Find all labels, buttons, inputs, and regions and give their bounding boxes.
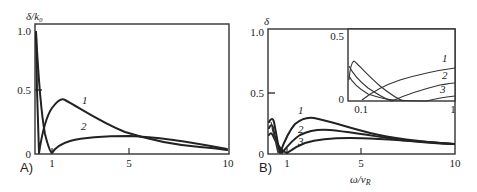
panel-a-y-tick-label-0.5: 0.5 (17, 84, 31, 96)
panel-a-y-axis-label: δ/k₀ (26, 10, 43, 22)
panel-b-x-tick-label-1: 1 (284, 157, 290, 169)
panel-b-x-axis-label: ω/vR (350, 173, 371, 187)
panel-b-curve-2-label: 2 (298, 123, 304, 135)
panel-b-inset: 0.5 0 0.1 1 1 2 3 (330, 29, 456, 115)
panel-b-y-axis-label: δ (264, 15, 270, 27)
inset-curve-2-label: 2 (442, 69, 448, 81)
panel-b-x-tick-label-5: 5 (358, 157, 364, 169)
inset-y-tick-label-0: 0 (339, 93, 345, 105)
inset-x-tick-label-0.1: 0.1 (354, 103, 368, 115)
panel-a-x-tick-label-1: 1 (49, 157, 55, 169)
panel-a-chart: δ/k₀ 1.0 0.5 0 1 5 10 A) 1 2 (17, 10, 234, 175)
inset-x-tick-label-1: 1 (450, 103, 456, 115)
panel-a-curve-2-label: 2 (81, 120, 87, 132)
panel-a-x-tick-label-5: 5 (126, 157, 132, 169)
panel-a-x-tick-label-10: 10 (223, 157, 235, 169)
panel-a-label: A) (20, 160, 33, 175)
panel-b-x-tick-label-10: 10 (450, 157, 462, 169)
panel-b-label: B) (259, 160, 272, 175)
panel-a-y-tick-label-0: 0 (26, 148, 32, 160)
panel-b-y-tick-label-0.5: 0.5 (250, 87, 264, 99)
inset-y-tick-label-0.5: 0.5 (330, 30, 344, 42)
panel-a-curve-1-label: 1 (82, 94, 88, 106)
figure: δ/k₀ 1.0 0.5 0 1 5 10 A) 1 2 δ 1.0 0.5 0… (0, 0, 477, 192)
panel-a-curve-1 (36, 32, 227, 153)
panel-b-curve-3-label: 3 (297, 135, 304, 147)
panel-b-chart: δ 1.0 0.5 0 1 5 10 B) ω/vR 1 2 3 0.5 0 0… (250, 15, 461, 187)
panel-a-y-tick-label-1: 1.0 (17, 25, 31, 37)
panel-b-curve-1-label: 1 (298, 104, 304, 116)
panel-b-y-tick-label-0: 0 (259, 148, 265, 160)
inset-curve-1-label: 1 (442, 52, 448, 64)
inset-curve-3-label: 3 (439, 83, 446, 95)
panel-b-y-tick-label-1: 1.0 (250, 26, 264, 38)
inset-plot-frame (348, 29, 455, 101)
